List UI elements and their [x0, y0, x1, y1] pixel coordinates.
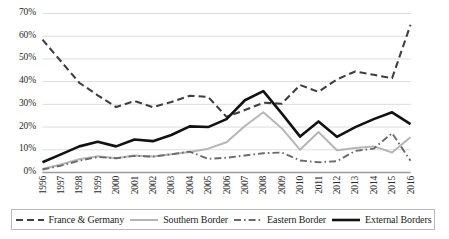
legend-label: Eastern Border — [267, 214, 326, 225]
plot-area — [0, 0, 449, 239]
legend: France & GermanySouthern BorderEastern B… — [11, 209, 435, 230]
series-line-eastern-border — [43, 133, 411, 169]
dashed-line-swatch — [15, 215, 45, 225]
series-lines — [43, 25, 411, 170]
series-line-france-germany — [43, 25, 411, 117]
legend-label: France & Germany — [49, 214, 125, 225]
legend-item-external-borders[interactable]: External Borders — [331, 214, 431, 225]
solid-bold-line-swatch — [331, 215, 361, 225]
solid-light-line-swatch — [129, 215, 159, 225]
legend-label: External Borders — [365, 214, 431, 225]
line-chart-figure: 0%10%20%30%40%50%60%70% 1996199719981999… — [0, 0, 449, 239]
legend-item-southern-border[interactable]: Southern Border — [129, 214, 228, 225]
dashdot-line-swatch — [233, 215, 263, 225]
legend-item-eastern-border[interactable]: Eastern Border — [233, 214, 326, 225]
legend-label: Southern Border — [163, 214, 228, 225]
legend-item-france-germany[interactable]: France & Germany — [15, 214, 125, 225]
